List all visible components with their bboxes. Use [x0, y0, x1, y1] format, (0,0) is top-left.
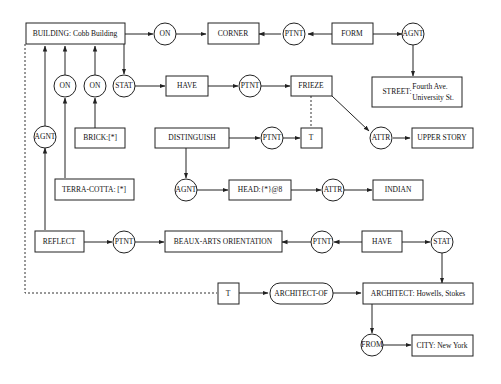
concept-frieze: FRIEZE	[291, 76, 332, 96]
svg-text:STAT: STAT	[433, 237, 451, 246]
svg-text:FORM: FORM	[341, 29, 363, 38]
svg-text:BUILDING: Cobb Building: BUILDING: Cobb Building	[33, 29, 118, 38]
svg-text:ON: ON	[60, 81, 71, 90]
concept-head: HEAD:{*}@8	[229, 180, 291, 200]
edge-frieze-attr1	[332, 96, 369, 131]
concept-city: CITY: New York	[412, 335, 473, 356]
relation-on-2: ON	[54, 75, 76, 97]
svg-text:TERRA-COTTA: [*]: TERRA-COTTA: [*]	[62, 185, 126, 194]
relation-attr-1: ATTR	[370, 127, 392, 149]
svg-text:UPPER STORY: UPPER STORY	[417, 133, 467, 142]
svg-text:ARCHITECT-OF: ARCHITECT-OF	[274, 289, 327, 298]
concept-architect-of: ARCHITECT-OF	[270, 283, 333, 304]
svg-text:AGNT: AGNT	[35, 132, 56, 141]
svg-text:HAVE: HAVE	[177, 81, 197, 90]
svg-text:CITY: New York: CITY: New York	[416, 341, 467, 350]
svg-text:ATTR: ATTR	[324, 185, 343, 194]
svg-text:T: T	[309, 133, 314, 142]
relation-on-3: ON	[84, 75, 106, 97]
svg-text:AGNT: AGNT	[403, 29, 424, 38]
relation-attr-2: ATTR	[322, 179, 344, 201]
concept-form: FORM	[332, 23, 373, 44]
concept-brick: BRICK:[*]	[75, 128, 125, 148]
concept-t-1: T	[301, 128, 322, 148]
svg-text:ON: ON	[160, 29, 171, 38]
relation-ptnt-5: PTNT	[311, 231, 333, 253]
relation-agnt-1: AGNT	[402, 23, 424, 45]
relation-stat-2: STAT	[431, 231, 453, 253]
svg-text:BRICK:[*]: BRICK:[*]	[83, 133, 117, 142]
svg-text:University St.: University St.	[412, 93, 454, 102]
concept-reflect: REFLECT	[35, 231, 84, 252]
relation-ptnt-1: PTNT	[283, 23, 305, 45]
relation-from: FROM	[361, 334, 383, 356]
svg-text:HEAD:{*}@8: HEAD:{*}@8	[238, 185, 283, 194]
svg-text:FRIEZE: FRIEZE	[298, 81, 324, 90]
concept-have-1: HAVE	[166, 76, 208, 96]
svg-text:T: T	[226, 289, 231, 298]
svg-text:STAT: STAT	[115, 81, 133, 90]
relation-ptnt-3: PTNT	[261, 127, 283, 149]
concept-indian: INDIAN	[373, 180, 423, 200]
svg-text:HAVE: HAVE	[372, 237, 392, 246]
relation-agnt-2: AGNT	[34, 126, 56, 148]
svg-text:INDIAN: INDIAN	[385, 185, 412, 194]
concept-building: BUILDING: Cobb Building	[26, 23, 125, 44]
concept-t-2: T	[218, 283, 239, 304]
svg-text:ON: ON	[90, 81, 101, 90]
relation-ptnt-4: PTNT	[113, 231, 135, 253]
svg-text:AGNT: AGNT	[176, 185, 197, 194]
svg-text:STREET:: STREET:	[382, 87, 411, 96]
svg-text:PTNT: PTNT	[241, 81, 260, 90]
svg-text:BEAUX-ARTS ORIENTATION: BEAUX-ARTS ORIENTATION	[174, 237, 273, 246]
svg-text:DISTINGUISH: DISTINGUISH	[168, 133, 216, 142]
svg-text:PTNT: PTNT	[285, 29, 304, 38]
svg-text:PTNT: PTNT	[115, 237, 134, 246]
concept-architect: ARCHITECT: Howells, Stokes	[363, 283, 473, 304]
svg-text:ARCHITECT: Howells, Stokes: ARCHITECT: Howells, Stokes	[371, 289, 465, 298]
relation-ptnt-2: PTNT	[239, 75, 261, 97]
concept-street: STREET: Fourth Ave. University St.	[372, 77, 462, 107]
svg-text:ATTR: ATTR	[372, 133, 391, 142]
concept-terra-cotta: TERRA-COTTA: [*]	[55, 179, 134, 200]
conceptual-graph-diagram: BUILDING: Cobb Building CORNER FORM STRE…	[0, 0, 501, 384]
svg-text:PTNT: PTNT	[263, 133, 282, 142]
concept-beaux-arts-orientation: BEAUX-ARTS ORIENTATION	[165, 231, 282, 252]
relation-on-1: ON	[154, 23, 176, 45]
svg-text:CORNER: CORNER	[218, 29, 248, 38]
concept-upper-story: UPPER STORY	[412, 128, 473, 148]
relation-agnt-3: AGNT	[175, 179, 197, 201]
concept-corner: CORNER	[208, 23, 259, 44]
concept-distinguish: DISTINGUISH	[155, 128, 229, 148]
relation-stat-1: STAT	[113, 75, 135, 97]
svg-text:REFLECT: REFLECT	[43, 237, 76, 246]
concept-have-2: HAVE	[362, 231, 402, 252]
svg-text:FROM: FROM	[361, 340, 383, 349]
svg-text:PTNT: PTNT	[313, 237, 332, 246]
svg-text:Fourth Ave.: Fourth Ave.	[412, 82, 447, 91]
